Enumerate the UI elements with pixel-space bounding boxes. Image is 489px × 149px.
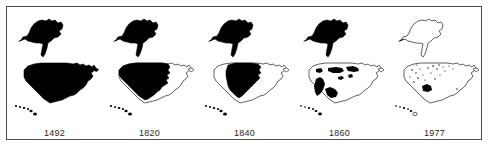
alaska-shape	[398, 19, 443, 57]
mainland-shape	[24, 63, 99, 103]
hawaii-shape	[205, 105, 227, 115]
map-series-figure: 1492	[0, 0, 489, 149]
mainland-shape	[214, 63, 289, 103]
map-graphic-1840	[197, 7, 292, 127]
panel-year-label: 1977	[387, 128, 482, 138]
alaska-shape	[208, 19, 253, 57]
mainland-shape	[404, 63, 479, 103]
panel-year-label: 1820	[102, 128, 197, 138]
figure-frame: 1492	[6, 6, 482, 140]
map-graphic-1977	[387, 7, 482, 127]
hawaii-shape	[15, 105, 37, 115]
map-graphic-1492	[7, 7, 102, 127]
hawaii-shape	[300, 105, 322, 115]
map-panel: 1820	[102, 7, 197, 141]
mainland-shape	[309, 63, 384, 103]
hawaii-shape	[110, 105, 132, 115]
map-panel: 1977	[387, 7, 482, 141]
panel-year-label: 1860	[292, 128, 387, 138]
map-graphic-1820	[102, 7, 197, 127]
map-panel: 1860	[292, 7, 387, 141]
panel-year-label: 1840	[197, 128, 292, 138]
alaska-shape	[113, 19, 158, 57]
panel-year-label: 1492	[7, 128, 102, 138]
map-panel: 1840	[197, 7, 292, 141]
map-graphic-1860	[292, 7, 387, 127]
alaska-shape	[18, 19, 63, 57]
map-panel: 1492	[7, 7, 102, 141]
hawaii-shape	[395, 105, 417, 116]
alaska-shape	[303, 19, 348, 57]
mainland-shape	[119, 63, 194, 103]
